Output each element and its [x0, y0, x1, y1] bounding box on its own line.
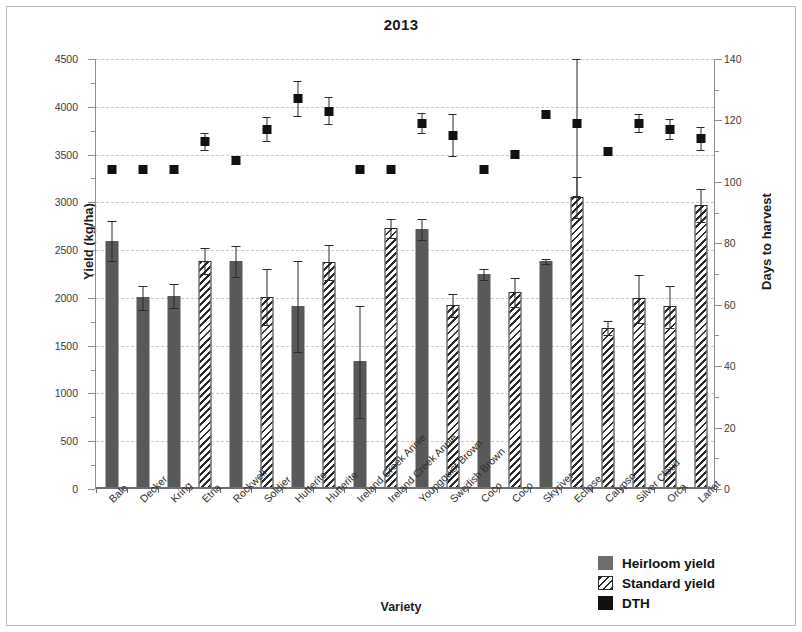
- dth-error-cap-bottom: [449, 156, 457, 157]
- dth-error-cap-top: [573, 59, 581, 60]
- y-tick-mark-left: [88, 202, 95, 203]
- legend: Heirloom yieldStandard yieldDTH: [598, 553, 715, 613]
- dth-error-cap-top: [666, 119, 674, 120]
- y-tick-minor-left: [91, 226, 95, 227]
- x-tick-mark: [96, 488, 97, 493]
- dth-marker: [479, 165, 488, 174]
- y-tick-minor-right: [715, 151, 719, 152]
- dth-error-cap-top: [697, 127, 705, 128]
- y-tick-mark-right: [715, 428, 722, 429]
- legend-label: DTH: [622, 596, 650, 611]
- dth-error-cap-bottom: [666, 139, 674, 140]
- legend-item: Standard yield: [598, 573, 715, 593]
- dth-error-cap-top: [418, 113, 426, 114]
- dth-marker: [665, 125, 674, 134]
- y-tick-mark-left: [88, 107, 95, 108]
- dth-marker: [696, 134, 705, 143]
- dth-slot: [158, 59, 189, 488]
- dth-marker: [541, 110, 550, 119]
- dth-marker: [231, 156, 240, 165]
- y-tick-label-left: 0: [18, 484, 78, 494]
- dth-error-cap-bottom: [418, 133, 426, 134]
- dth-slot: [406, 59, 437, 488]
- chart-figure: 2013 Yield (kg/ha) Days to harvest Varie…: [0, 0, 802, 632]
- y-tick-minor-left: [91, 83, 95, 84]
- y-tick-mark-left: [88, 441, 95, 442]
- dth-error-cap-top: [263, 117, 271, 118]
- y-tick-mark-right: [715, 305, 722, 306]
- y-tick-label-left: 2000: [18, 293, 78, 303]
- dth-error-cap-bottom: [325, 124, 333, 125]
- dth-marker: [169, 165, 178, 174]
- y-tick-minor-left: [91, 274, 95, 275]
- legend-item: DTH: [598, 593, 715, 613]
- y-tick-label-left: 2500: [18, 245, 78, 255]
- y-tick-minor-right: [715, 458, 719, 459]
- y-tick-label-right: 60: [724, 300, 784, 310]
- y-tick-minor-left: [91, 131, 95, 132]
- dth-slot: [623, 59, 654, 488]
- dth-slot: [654, 59, 685, 488]
- dth-slot: [375, 59, 406, 488]
- y-tick-minor-right: [715, 90, 719, 91]
- dth-error-cap-bottom: [697, 150, 705, 151]
- y-tick-mark-left: [88, 393, 95, 394]
- y-tick-minor-right: [715, 274, 719, 275]
- dth-error-cap-bottom: [294, 116, 302, 117]
- dth-marker: [417, 119, 426, 128]
- y-tick-label-right: 0: [724, 484, 784, 494]
- y-tick-mark-right: [715, 120, 722, 121]
- y-tick-minor-left: [91, 322, 95, 323]
- dth-marker: [603, 147, 612, 156]
- dth-marker: [355, 165, 364, 174]
- dth-slot: [499, 59, 530, 488]
- y-tick-minor-left: [91, 178, 95, 179]
- y-tick-label-left: 4000: [18, 102, 78, 112]
- dth-marker: [572, 119, 581, 128]
- dth-slot: [468, 59, 499, 488]
- dth-marker: [324, 107, 333, 116]
- y-tick-label-right: 20: [724, 423, 784, 433]
- y-tick-mark-right: [715, 182, 722, 183]
- dth-marker: [262, 125, 271, 134]
- dth-slot: [685, 59, 716, 488]
- dth-error-bar: [576, 59, 577, 197]
- legend-label: Standard yield: [622, 576, 715, 591]
- y-tick-mark-right: [715, 59, 722, 60]
- dth-error-cap-top: [635, 114, 643, 115]
- y-tick-label-left: 500: [18, 436, 78, 446]
- dth-slot: [313, 59, 344, 488]
- y-tick-label-right: 40: [724, 361, 784, 371]
- dth-error-cap-top: [325, 97, 333, 98]
- dth-error-cap-bottom: [201, 150, 209, 151]
- legend-swatch-sq: [598, 596, 613, 610]
- y-tick-mark-left: [88, 298, 95, 299]
- y-tick-label-left: 1500: [18, 341, 78, 351]
- dth-slot: [344, 59, 375, 488]
- dth-marker: [293, 94, 302, 103]
- y-tick-label-right: 100: [724, 177, 784, 187]
- y-tick-mark-right: [715, 243, 722, 244]
- legend-swatch-solid: [598, 556, 613, 570]
- dth-slot: [561, 59, 592, 488]
- dth-marker: [200, 137, 209, 146]
- dth-error-cap-bottom: [635, 132, 643, 133]
- y-tick-mark-left: [88, 489, 95, 490]
- dth-marker: [510, 150, 519, 159]
- dth-slot: [96, 59, 127, 488]
- dth-slot: [592, 59, 623, 488]
- dth-slot: [220, 59, 251, 488]
- y-tick-label-left: 3500: [18, 150, 78, 160]
- legend-label: Heirloom yield: [622, 556, 715, 571]
- dth-marker: [448, 131, 457, 140]
- dth-slot: [282, 59, 313, 488]
- dth-marker: [107, 165, 116, 174]
- dth-slot: [437, 59, 468, 488]
- dth-error-cap-top: [449, 114, 457, 115]
- y-tick-label-left: 3000: [18, 197, 78, 207]
- dth-marker: [386, 165, 395, 174]
- legend-swatch-hatch: [598, 576, 613, 590]
- y-tick-mark-left: [88, 346, 95, 347]
- y-tick-mark-left: [88, 155, 95, 156]
- dth-slot: [251, 59, 282, 488]
